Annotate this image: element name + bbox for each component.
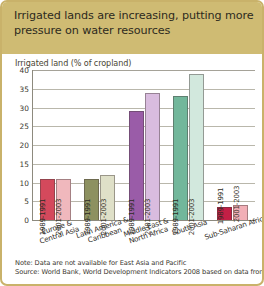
y-tick-label: 0 <box>24 216 29 225</box>
bar[interactable]: 1989-1991 <box>84 179 99 220</box>
y-tick-label: 10 <box>20 178 29 187</box>
bar[interactable]: 1989-1991 <box>129 111 144 220</box>
bar[interactable]: 1989-1991 <box>173 96 188 220</box>
x-category-label: Europe &Central Asia <box>36 218 80 246</box>
bar[interactable]: 2001-2003 <box>145 93 160 221</box>
y-tick-label: 35 <box>20 84 29 93</box>
bar-group: 1989-19912001-2003 <box>33 70 77 220</box>
y-tick-label: 30 <box>20 103 29 112</box>
y-tick-label: 20 <box>20 141 29 150</box>
note-availability: Note: Data are not available for East As… <box>15 259 261 268</box>
chart-title: Irrigated lands are increasing, putting … <box>14 9 256 38</box>
y-tick-label: 5 <box>24 197 29 206</box>
bar[interactable]: 2001-2003 <box>233 205 248 220</box>
bar[interactable]: 2001-2003 <box>56 179 71 220</box>
bar[interactable]: 2001-2003 <box>100 175 115 220</box>
figure-card: Irrigated lands are increasing, putting … <box>0 0 264 286</box>
note-source: Source: World Bank, World Development In… <box>15 268 261 277</box>
axis-title: Irrigated land (% of cropland) <box>15 58 131 68</box>
y-tick-label: 40 <box>20 66 29 75</box>
x-axis-category-labels: Europe &Central AsiaLatin America &Carib… <box>32 222 254 258</box>
bar[interactable]: 1989-1991 <box>40 179 55 220</box>
bar-period-label: 2001-2003 <box>233 186 241 222</box>
bar[interactable]: 1989-1991 <box>217 207 232 220</box>
plot-area: 0510152025303540 1989-19912001-20031989-… <box>2 70 264 232</box>
x-category: Latin America &Caribbean <box>76 222 120 258</box>
x-category: Middle East &North Africa <box>121 222 165 258</box>
y-tick-label: 15 <box>20 159 29 168</box>
y-tick-label: 25 <box>20 122 29 131</box>
bar-group: 1989-19912001-2003 <box>211 70 255 220</box>
bar[interactable]: 2001-2003 <box>189 74 204 220</box>
bar-group: 1989-19912001-2003 <box>166 70 210 220</box>
x-category: Sub-Saharan Africa <box>210 222 254 258</box>
y-axis-ticks: 0510152025303540 <box>2 70 32 220</box>
bar-group: 1989-19912001-2003 <box>77 70 121 220</box>
plot-canvas: 1989-19912001-20031989-19912001-20031989… <box>32 70 255 221</box>
bar-period-label: 1989-1991 <box>217 188 225 224</box>
bar-groups: 1989-19912001-20031989-19912001-20031989… <box>33 70 255 220</box>
bar-group: 1989-19912001-2003 <box>122 70 166 220</box>
footnotes: Note: Data are not available for East As… <box>15 259 261 277</box>
title-band: Irrigated lands are increasing, putting … <box>2 2 264 54</box>
x-category: Europe &Central Asia <box>32 222 76 258</box>
x-category: South Asia <box>165 222 209 258</box>
